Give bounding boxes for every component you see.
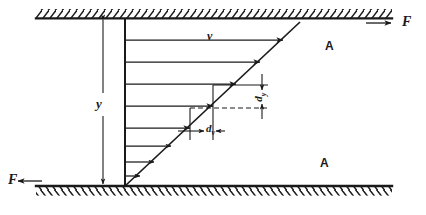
- dy-label-subscript: y: [259, 93, 268, 97]
- velocity-label: v: [207, 30, 212, 42]
- dv-label-subscript: v: [212, 128, 216, 137]
- force-label-top: F: [402, 15, 411, 29]
- dv-dimension: [178, 85, 225, 140]
- dy-label-base: d: [252, 96, 264, 102]
- dv-label: dv: [206, 123, 215, 137]
- bottom-wall: [36, 186, 392, 196]
- area-label-top: A: [325, 40, 334, 52]
- viscosity-velocity-gradient-figure: v y dv dy A A F F: [0, 0, 426, 215]
- force-label-bottom: F: [8, 173, 17, 187]
- gap-height-label: y: [96, 97, 102, 110]
- area-label-bottom: A: [320, 157, 329, 169]
- top-wall: [36, 9, 392, 18]
- figure-canvas: [0, 0, 426, 215]
- dy-label: dy: [253, 93, 267, 102]
